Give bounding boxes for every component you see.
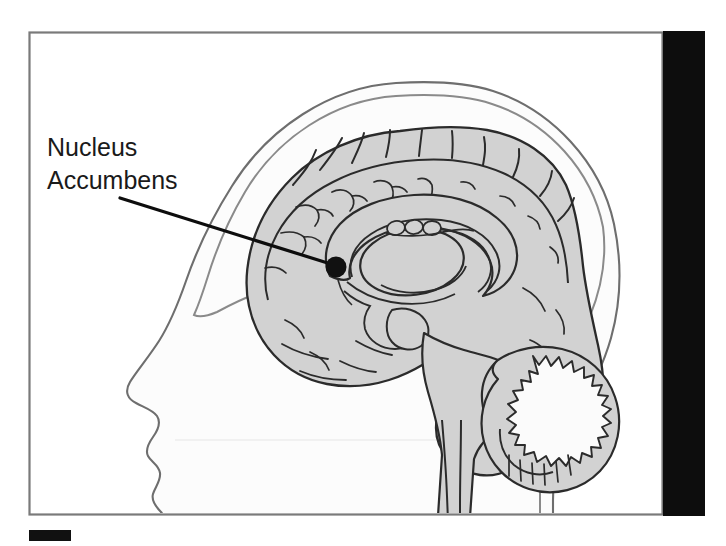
nucleus-accumbens-marker xyxy=(326,257,347,278)
figure-root: Nucleus Accumbens xyxy=(0,0,726,546)
brain-diagram-svg: Nucleus Accumbens xyxy=(0,0,726,546)
right-black-bar xyxy=(663,31,705,516)
bottom-left-black-bar xyxy=(29,530,71,541)
label-line-1: Nucleus xyxy=(47,133,137,161)
label-line-2: Accumbens xyxy=(47,166,178,194)
